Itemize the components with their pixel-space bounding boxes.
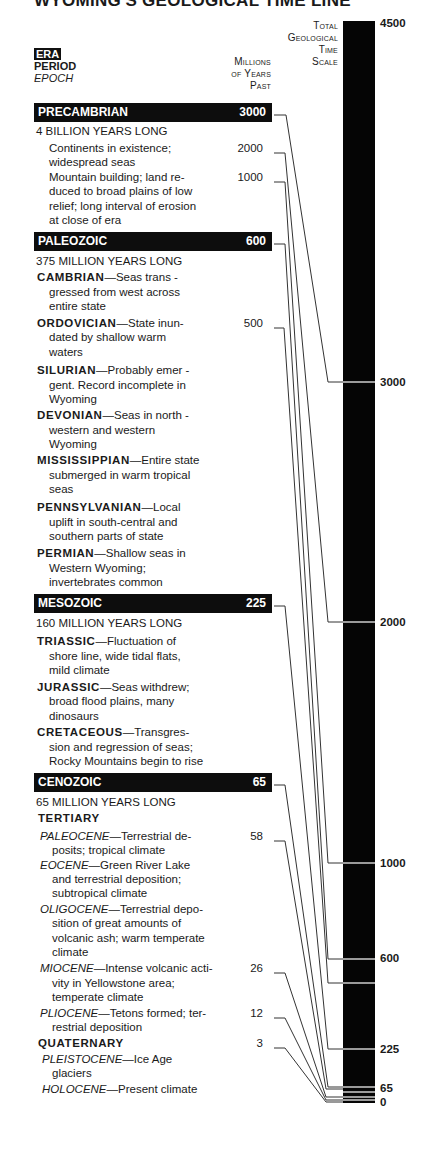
scale-label-600: 600 — [380, 952, 399, 964]
scale-label-2000: 2000 — [380, 616, 406, 628]
scale-label-225: 225 — [380, 1043, 399, 1055]
scale-label-3000: 3000 — [380, 376, 406, 388]
scale-label-1000: 1000 — [380, 857, 406, 869]
connector-lines — [0, 0, 424, 1150]
scale-label-4500: 4500 — [380, 17, 406, 29]
scale-label-65: 65 — [380, 1082, 393, 1094]
scale-label-0: 0 — [380, 1096, 386, 1108]
